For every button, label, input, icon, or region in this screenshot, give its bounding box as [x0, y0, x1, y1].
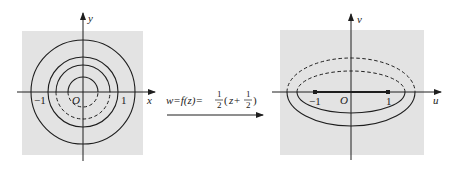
z-plus: z+: [228, 94, 241, 106]
formula-lhs: w=f(z)=: [166, 94, 203, 107]
paren-open: (: [224, 94, 228, 107]
w-origin-label: O: [340, 94, 348, 106]
conformal-map-diagram: x y O −1 1 w=f(z)= 1 2 ( z+ 1 2 ): [0, 0, 454, 170]
frac2-denominator: 2: [246, 100, 251, 110]
w-tick-one: 1: [386, 95, 392, 107]
u-axis-label: u: [433, 94, 439, 106]
x-axis-label: x: [146, 94, 152, 106]
paren-close: ): [253, 94, 257, 107]
point-neg-one: [313, 90, 317, 94]
frac1-numerator: 1: [217, 89, 222, 99]
v-axis-label: v: [357, 13, 362, 25]
w-tick-neg-one: −1: [309, 95, 321, 107]
z-origin-label: O: [72, 94, 80, 106]
z-plane: x y O −1 1: [17, 12, 155, 161]
mapping-formula: w=f(z)= 1 2 ( z+ 1 2 ): [166, 89, 263, 115]
point-one: [386, 90, 390, 94]
frac1-denominator: 2: [217, 100, 222, 110]
w-plane: u v O −1 1: [272, 13, 441, 160]
z-tick-neg-one: −1: [34, 94, 46, 106]
y-axis-label: y: [87, 12, 93, 24]
frac2-numerator: 1: [246, 89, 251, 99]
z-tick-one: 1: [121, 94, 127, 106]
